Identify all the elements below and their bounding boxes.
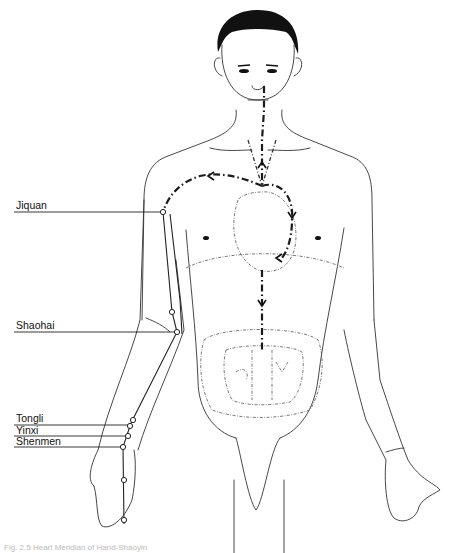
- acupoint-lingdao: [130, 417, 135, 422]
- organs: [186, 192, 344, 418]
- acupoint-shaochong: [121, 517, 126, 522]
- acupoint-qingling: [169, 309, 174, 314]
- heart-outline: [234, 192, 296, 272]
- acupoints: [120, 209, 179, 522]
- acupoint-yinxi: [125, 433, 130, 438]
- anatomy-diagram: [0, 0, 454, 553]
- head: [214, 10, 302, 100]
- diaphragm-line: [186, 254, 344, 268]
- label-shaohai: Shaohai: [16, 320, 55, 331]
- meridian-path: [123, 86, 296, 524]
- acupoint-shenmen: [120, 444, 125, 449]
- acupoint-tongli: [127, 423, 132, 428]
- acupoint-shaofu: [121, 477, 126, 482]
- acupoint-jiquan: [160, 209, 165, 214]
- arms: [90, 200, 440, 527]
- label-tongli: Tongli: [16, 413, 43, 424]
- figure-caption: Fig. 2.5 Heart Meridian of Hand-Shaoyin: [4, 543, 147, 552]
- hair: [217, 10, 298, 54]
- label-yinxi: Yinxi: [16, 425, 38, 436]
- label-shenmen: Shenmen: [16, 436, 61, 447]
- label-jiquan: Jiquan: [16, 200, 47, 211]
- acupoint-shaohai: [174, 329, 179, 334]
